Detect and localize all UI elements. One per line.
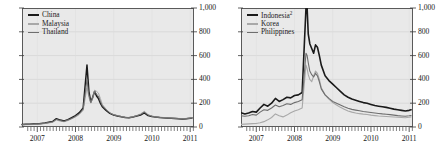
- legend-label: Thailand: [42, 28, 68, 37]
- data-series-left: [22, 65, 192, 125]
- legend-label-superscript: 2: [290, 10, 293, 16]
- legend-left: China Malaysia Thailand: [28, 11, 69, 37]
- x-axis-tick-label: 2010: [358, 134, 384, 143]
- legend-item-philippines: Philippines: [247, 28, 294, 37]
- y-axis-tick-label: 1,000: [418, 3, 435, 12]
- x-axis-tick-label: 2007: [243, 134, 269, 143]
- y-axis-tick-label: 600: [199, 51, 210, 60]
- line-swatch-icon: [247, 14, 258, 16]
- legend-right: Indonesia2 Korea Philippines: [247, 11, 294, 37]
- y-axis-tick-label: 200: [418, 98, 429, 107]
- legend-item-thailand: Thailand: [28, 28, 69, 37]
- y-axis-tick-label: 1,000: [199, 3, 216, 12]
- line-swatch-icon: [247, 32, 258, 34]
- chart-panel-left: China Malaysia Thailand 1,00080060040020…: [0, 0, 218, 151]
- x-axis-tick-label: 2008: [282, 134, 308, 143]
- y-axis-tick-label: 600: [418, 51, 429, 60]
- x-axis-tick-label: 2011: [177, 134, 203, 143]
- x-axis-tick-label: 2008: [63, 134, 89, 143]
- chart-figure: China Malaysia Thailand 1,00080060040020…: [0, 0, 437, 151]
- x-axis-tick-label: 2009: [101, 134, 127, 143]
- y-axis-tick-label: 0: [418, 122, 422, 131]
- legend-label: Philippines: [261, 28, 294, 37]
- x-axis-tick-label: 2007: [24, 134, 50, 143]
- x-axis-ticks-left: [28, 127, 194, 132]
- x-axis-ticks-right: [247, 127, 413, 132]
- line-swatch-icon: [28, 23, 39, 25]
- line-swatch-icon: [28, 32, 39, 34]
- y-axis-tick-label: 400: [418, 74, 429, 83]
- x-axis-tick-label: 2010: [139, 134, 165, 143]
- y-axis-tick-label: 0: [199, 122, 203, 131]
- y-axis-tick-label: 200: [199, 98, 210, 107]
- x-axis-tick-label: 2011: [396, 134, 422, 143]
- y-axis-tick-label: 800: [418, 27, 429, 36]
- line-swatch-icon: [247, 23, 258, 25]
- chart-panel-right: Indonesia2 Korea Philippines 1,000800600…: [219, 0, 437, 151]
- line-swatch-icon: [28, 14, 39, 16]
- y-axis-tick-label: 400: [199, 74, 210, 83]
- y-axis-tick-label: 800: [199, 27, 210, 36]
- x-axis-tick-label: 2009: [320, 134, 346, 143]
